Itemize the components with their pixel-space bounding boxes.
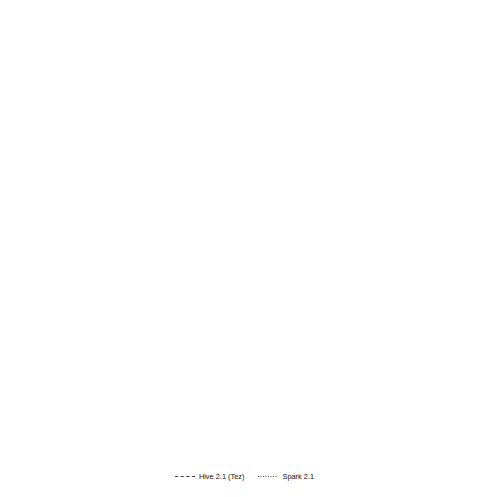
panel-grid [2,8,487,463]
legend-item-hive: Hive 2.1 (Tez) [175,472,245,481]
legend-label-spark: Spark 2.1 [282,472,314,481]
radar-figure: Hive 2.1 (Tez) Spark 2.1 [0,0,489,497]
dashed-line-icon [175,473,195,480]
legend-label-hive: Hive 2.1 (Tez) [199,472,245,481]
dotted-line-icon [258,473,278,480]
figure-legend: Hive 2.1 (Tez) Spark 2.1 [0,472,489,481]
legend-item-spark: Spark 2.1 [258,472,314,481]
